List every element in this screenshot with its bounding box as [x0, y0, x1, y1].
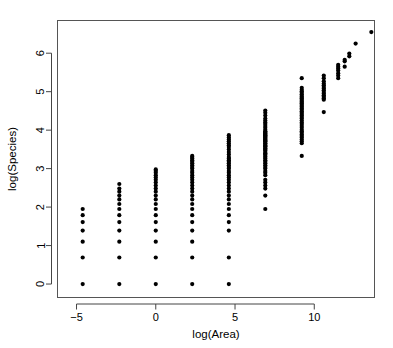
data-point — [117, 193, 121, 197]
data-point — [154, 255, 158, 259]
data-point — [81, 213, 85, 217]
y-tick-label: 3 — [35, 166, 47, 172]
data-point — [154, 207, 158, 211]
data-point — [227, 133, 231, 137]
data-point — [263, 207, 267, 211]
data-point — [81, 282, 85, 286]
data-point — [190, 154, 194, 158]
data-point — [190, 207, 194, 211]
data-point — [190, 213, 194, 217]
figure-background — [0, 0, 393, 348]
x-tick-label: 0 — [153, 311, 159, 323]
y-tick-label: 4 — [35, 127, 47, 133]
data-point — [117, 240, 121, 244]
data-point — [117, 182, 121, 186]
y-tick-label: 1 — [35, 243, 47, 249]
scatter-plot-figure: −50510 0123456 log(Area) log(Species) — [0, 0, 393, 348]
data-point — [190, 255, 194, 259]
data-point — [117, 228, 121, 232]
data-point — [190, 240, 194, 244]
data-point — [81, 255, 85, 259]
data-point — [154, 220, 158, 224]
data-point — [117, 207, 121, 211]
data-point — [190, 220, 194, 224]
x-tick-label: 10 — [308, 311, 320, 323]
data-point — [263, 193, 267, 197]
data-point — [227, 207, 231, 211]
data-point — [81, 228, 85, 232]
data-point — [300, 86, 304, 90]
data-point — [227, 220, 231, 224]
y-tick-label: 2 — [35, 204, 47, 210]
data-point — [227, 255, 231, 259]
x-tick-label: 5 — [232, 311, 238, 323]
x-axis-title: log(Area) — [192, 328, 239, 340]
data-point — [81, 220, 85, 224]
data-point — [322, 110, 326, 114]
data-point — [154, 167, 158, 171]
data-point — [190, 193, 194, 197]
data-point — [117, 282, 121, 286]
data-point — [117, 187, 121, 191]
data-point — [154, 197, 158, 201]
data-point — [263, 178, 267, 182]
data-point — [227, 202, 231, 206]
data-point — [117, 220, 121, 224]
data-point — [154, 213, 158, 217]
data-point — [190, 228, 194, 232]
data-point — [154, 202, 158, 206]
data-point — [154, 228, 158, 232]
data-point — [322, 73, 326, 77]
data-point — [81, 207, 85, 211]
data-point — [227, 197, 231, 201]
data-point — [117, 197, 121, 201]
data-point — [190, 202, 194, 206]
data-point — [347, 51, 351, 55]
data-point — [227, 228, 231, 232]
data-point — [343, 65, 347, 69]
data-point — [227, 282, 231, 286]
data-point — [117, 255, 121, 259]
y-tick-label: 0 — [35, 281, 47, 287]
plot-canvas: −50510 0123456 log(Area) log(Species) — [0, 0, 393, 348]
data-point — [117, 202, 121, 206]
data-point — [154, 282, 158, 286]
data-point — [227, 193, 231, 197]
data-point — [190, 197, 194, 201]
data-point — [154, 240, 158, 244]
data-point — [369, 30, 373, 34]
data-point — [117, 213, 121, 217]
data-point — [343, 58, 347, 62]
data-point — [227, 213, 231, 217]
data-point — [354, 41, 358, 45]
data-point — [263, 108, 267, 112]
y-tick-label: 5 — [35, 89, 47, 95]
y-tick-label: 6 — [35, 50, 47, 56]
y-axis-title: log(Species) — [6, 127, 18, 191]
data-point — [300, 76, 304, 80]
data-point — [81, 240, 85, 244]
data-point — [300, 154, 304, 158]
x-tick-label: −5 — [70, 311, 83, 323]
data-point — [190, 282, 194, 286]
data-point — [154, 193, 158, 197]
data-point — [336, 63, 340, 67]
